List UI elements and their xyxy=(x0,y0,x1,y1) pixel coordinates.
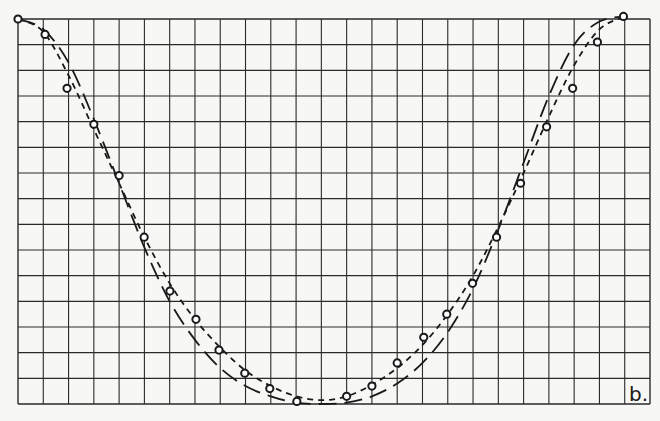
data-point-marker xyxy=(293,398,300,405)
data-point-marker xyxy=(192,316,199,323)
chart-data-points xyxy=(14,13,627,405)
data-point-marker xyxy=(517,180,524,187)
data-point-marker xyxy=(266,385,273,392)
data-point-marker xyxy=(443,311,450,318)
data-point-marker xyxy=(141,234,148,241)
data-point-marker xyxy=(215,347,222,354)
data-point-marker xyxy=(41,31,48,38)
data-point-marker xyxy=(166,287,173,294)
data-point-marker xyxy=(343,393,350,400)
data-point-marker xyxy=(420,334,427,341)
data-point-marker xyxy=(90,121,97,128)
data-point-marker xyxy=(116,172,123,179)
data-point-marker xyxy=(493,234,500,241)
data-point-marker xyxy=(620,13,627,20)
data-point-marker xyxy=(569,85,576,92)
data-point-marker xyxy=(14,15,21,22)
data-point-marker xyxy=(63,85,70,92)
data-point-marker xyxy=(368,382,375,389)
data-point-marker xyxy=(241,370,248,377)
panel-label: b. xyxy=(629,382,648,406)
chart-grid xyxy=(18,19,650,404)
data-point-marker xyxy=(543,123,550,130)
data-point-marker xyxy=(394,359,401,366)
data-point-marker xyxy=(469,280,476,287)
data-point-marker xyxy=(594,39,601,46)
chart-figure xyxy=(0,0,660,421)
